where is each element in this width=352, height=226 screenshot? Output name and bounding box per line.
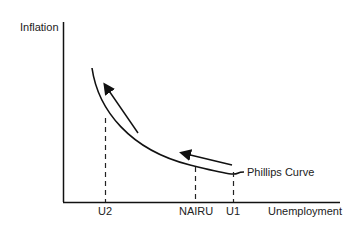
tick-u1: U1 [226, 205, 240, 217]
y-axis-label: Inflation [20, 21, 59, 33]
tick-nairu: NAIRU [179, 205, 213, 217]
tick-u2: U2 [98, 205, 112, 217]
phillips-curve-chart [0, 0, 352, 226]
arrow-up-left [105, 85, 138, 133]
curve-label: Phillips Curve [247, 166, 314, 178]
x-axis-label: Unemployment [268, 205, 342, 217]
arrow-left [182, 153, 232, 165]
phillips-curve [92, 68, 244, 174]
